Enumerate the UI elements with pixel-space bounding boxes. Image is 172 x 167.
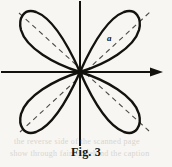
petal-amplitude-label: a [107, 33, 112, 43]
x-axis-arrowhead [150, 68, 163, 77]
figure-caption: Fig. 3 [0, 145, 172, 160]
figure-container: a the reverse side of the scanned page s… [0, 0, 172, 167]
petal-quadrant-2 [20, 11, 80, 72]
petal-quadrant-4 [80, 72, 140, 133]
polar-rose-plot [0, 0, 172, 167]
